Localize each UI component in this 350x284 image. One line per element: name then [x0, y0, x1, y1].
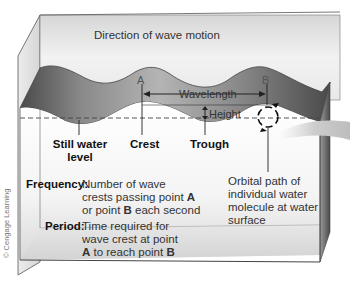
period-term: Period: [45, 220, 85, 233]
point-a-label: A [137, 74, 144, 87]
height-label: Height [209, 108, 241, 121]
crest-label: Crest [130, 138, 159, 151]
copyright-credit: © Cengage Learning [2, 189, 11, 258]
wavelength-label: Wavelength [179, 88, 237, 101]
wave-motion-title: Direction of wave motion [94, 29, 220, 42]
period-definition: Time required for wave crest at point A … [82, 220, 178, 259]
wave-diagram: Direction of wave motion A B Wavelength … [0, 0, 350, 284]
frequency-definition: Number of wave crests passing point A or… [82, 178, 200, 217]
point-b-label: B [262, 74, 269, 87]
frequency-term: Frequency: [26, 178, 88, 191]
still-water-level-label: Still water level [50, 138, 110, 164]
orbital-path-label: Orbital path of individual water molecul… [228, 175, 318, 227]
trough-label: Trough [190, 138, 229, 151]
